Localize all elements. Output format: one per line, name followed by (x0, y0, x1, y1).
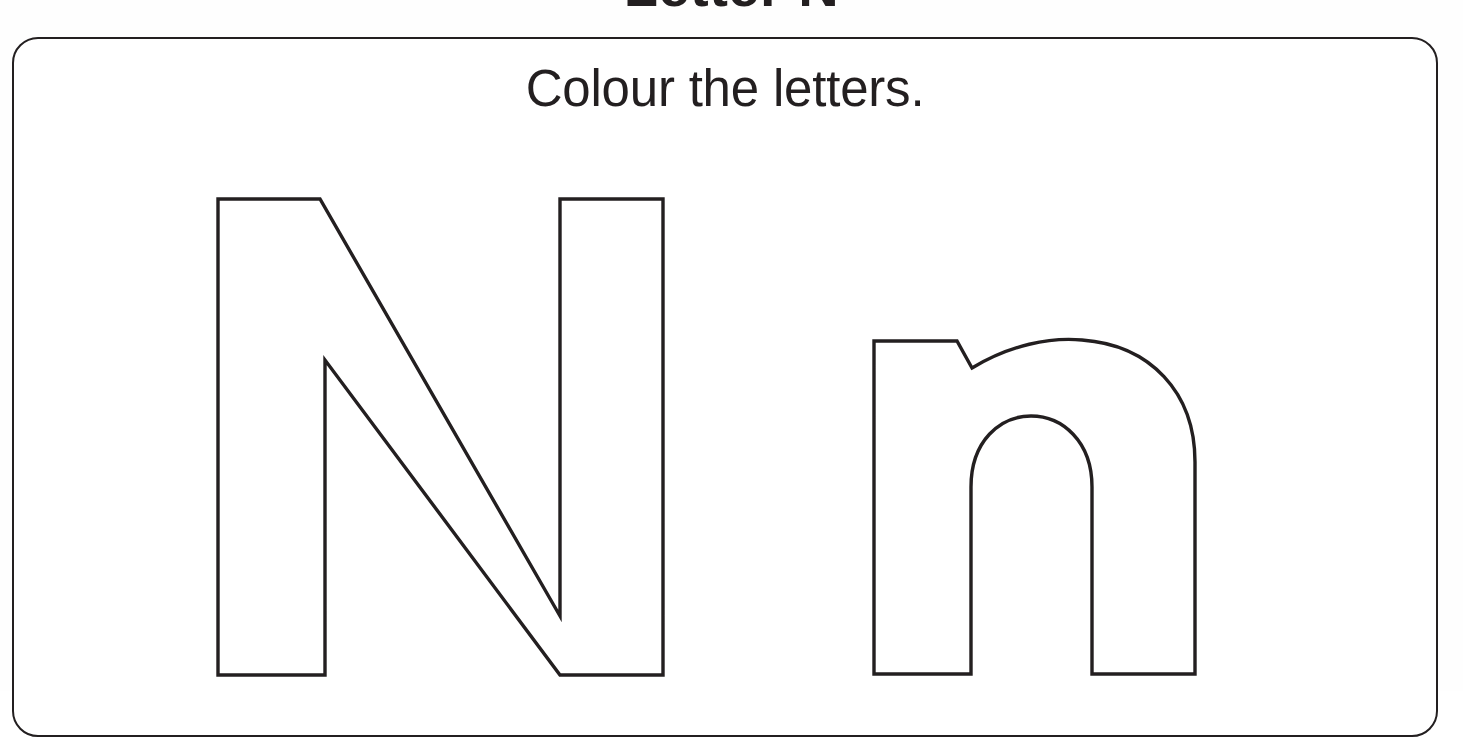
instruction-text: Colour the letters. (14, 59, 1436, 118)
page-title: Letter N (0, 0, 1463, 19)
worksheet-card: Colour the letters. (12, 37, 1438, 737)
